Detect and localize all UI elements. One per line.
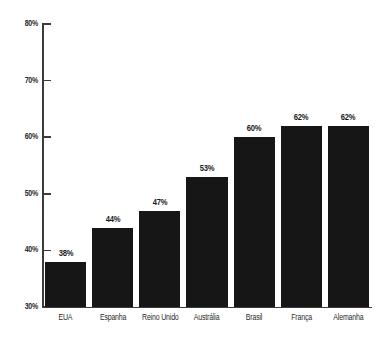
bar-group[interactable]: 47% <box>139 24 180 307</box>
x-axis-category-text: Alemanha <box>333 313 363 322</box>
x-axis-category-label: Alemanha <box>325 313 372 322</box>
bar-group[interactable]: 38% <box>45 24 86 307</box>
bar-value-label: 62% <box>341 112 356 122</box>
x-axis-category-label: EUA <box>42 313 89 322</box>
bar-group[interactable]: 44% <box>92 24 133 307</box>
bar-group[interactable]: 60% <box>234 24 275 307</box>
y-tick-label: 30% <box>8 302 38 311</box>
bar-value-label: 60% <box>247 123 262 133</box>
bar[interactable] <box>92 228 133 307</box>
x-axis-category-label: Espanha <box>89 313 136 322</box>
bar[interactable] <box>328 126 369 307</box>
bar-group[interactable]: 62% <box>281 24 322 307</box>
plot-area: 38%44%47%53%60%62%62% <box>42 24 372 307</box>
x-axis-category-label: Brasil <box>231 313 278 322</box>
x-axis-category-text: Austrália <box>194 313 220 322</box>
x-axis-category-text: EUA <box>59 313 73 322</box>
x-axis-category-label: França <box>278 313 325 322</box>
bar-value-label: 47% <box>153 197 168 207</box>
x-axis-category-text: França <box>291 313 312 322</box>
bar-group[interactable]: 53% <box>186 24 227 307</box>
y-tick-label: 60% <box>8 132 38 141</box>
y-tick-label: 50% <box>8 189 38 198</box>
bar[interactable] <box>234 137 275 307</box>
x-axis-category-text: Reino Unido <box>142 313 179 322</box>
y-tick-label: 80% <box>8 19 38 28</box>
x-axis-category-text: Brasil <box>246 313 262 322</box>
bar[interactable] <box>186 177 227 307</box>
bar-value-label: 62% <box>294 112 309 122</box>
x-axis-category-text: Espanha <box>100 313 126 322</box>
bar-value-label: 44% <box>105 214 120 224</box>
bar[interactable] <box>45 262 86 307</box>
bar-group[interactable]: 62% <box>328 24 369 307</box>
bar[interactable] <box>139 211 180 307</box>
bar-chart: 30%40%50%60%70%80% 38%44%47%53%60%62%62%… <box>0 0 387 344</box>
x-axis-category-label: Austrália <box>183 313 230 322</box>
y-tick-label: 70% <box>8 76 38 85</box>
y-tick-label: 40% <box>8 245 38 254</box>
bar-value-label: 38% <box>58 248 73 258</box>
x-axis-category-label: Reino Unido <box>136 313 183 322</box>
bar[interactable] <box>281 126 322 307</box>
bar-value-label: 53% <box>200 163 215 173</box>
